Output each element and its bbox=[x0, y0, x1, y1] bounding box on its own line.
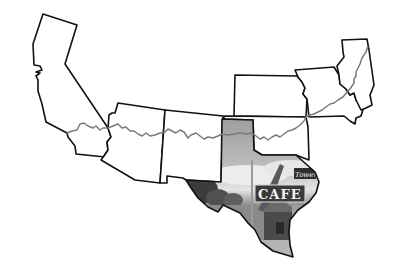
state-kansas bbox=[234, 75, 307, 117]
cafe-sign-text: CAFE bbox=[258, 187, 302, 202]
state-arizona bbox=[101, 103, 165, 183]
route-66-map: CAFE Tower bbox=[0, 0, 400, 271]
state-california bbox=[33, 14, 111, 157]
state-new-mexico bbox=[160, 110, 223, 183]
